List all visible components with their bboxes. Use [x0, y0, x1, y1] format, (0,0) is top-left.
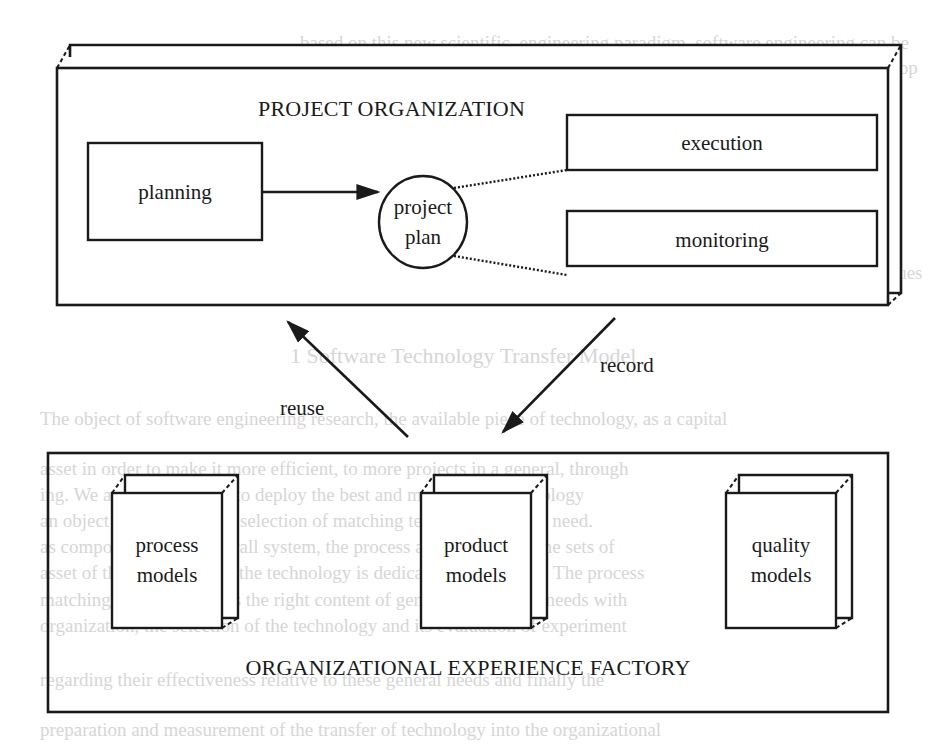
planning-label: planning — [88, 182, 262, 203]
process-models-line1: process — [112, 530, 222, 560]
process-models-label: process models — [112, 530, 222, 590]
record-arrow — [503, 318, 615, 432]
experience-factory-title: ORGANIZATIONAL EXPERIENCE FACTORY — [48, 657, 888, 679]
quality-models-line1: quality — [726, 530, 836, 560]
reuse-label: reuse — [280, 398, 324, 419]
project-organization-title: PROJECT ORGANIZATION — [258, 98, 525, 120]
project-plan-line2: plan — [379, 222, 467, 252]
record-label: record — [600, 355, 654, 376]
product-models-line2: models — [421, 560, 531, 590]
execution-label: execution — [567, 133, 877, 154]
project-plan-line1: project — [379, 192, 467, 222]
quality-models-label: quality models — [726, 530, 836, 590]
product-models-label: product models — [421, 530, 531, 590]
process-models-line2: models — [112, 560, 222, 590]
monitoring-label: monitoring — [567, 230, 877, 251]
product-models-line1: product — [421, 530, 531, 560]
quality-models-line2: models — [726, 560, 836, 590]
project-plan-label: project plan — [379, 192, 467, 252]
